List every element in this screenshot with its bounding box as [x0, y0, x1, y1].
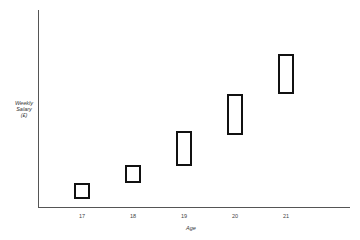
x-axis: [38, 207, 350, 208]
salary-range-box-age-19: [176, 131, 192, 166]
salary-range-box-age-20: [227, 94, 243, 135]
x-tick-label: 21: [276, 213, 296, 219]
x-tick-label: 19: [174, 213, 194, 219]
y-axis: [38, 10, 39, 207]
salary-range-box-age-21: [278, 54, 294, 94]
salary-range-box-age-17: [74, 183, 90, 199]
salary-range-box-age-18: [125, 165, 141, 183]
x-axis-label: Age: [176, 225, 206, 231]
y-label-line-3: (£): [10, 112, 38, 118]
x-tick-label: 18: [123, 213, 143, 219]
x-tick-label: 17: [72, 213, 92, 219]
x-tick-label: 20: [225, 213, 245, 219]
y-axis-label: Weekly Salary (£): [10, 100, 38, 118]
